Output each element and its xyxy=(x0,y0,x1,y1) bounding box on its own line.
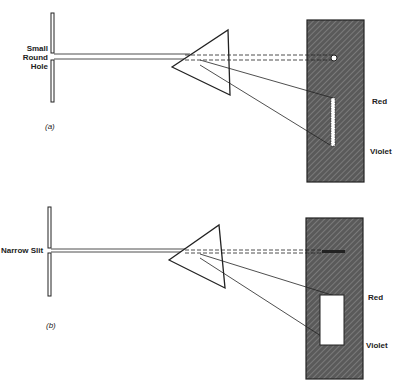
panel-b-caption: (b) xyxy=(46,321,56,330)
slit-label: Narrow Slit xyxy=(1,246,43,255)
panel-a xyxy=(51,13,364,182)
prism xyxy=(169,225,225,288)
diagram-canvas xyxy=(0,0,403,384)
aperture-label-line-1: Small xyxy=(20,44,48,53)
prism xyxy=(172,30,230,95)
panel-a-caption: (a) xyxy=(45,122,55,131)
spectrum-band xyxy=(320,295,344,345)
red-label-b: Red xyxy=(368,293,383,302)
aperture-plate-bottom xyxy=(51,60,54,102)
screen xyxy=(307,20,364,182)
hole-image xyxy=(331,55,337,61)
violet-label-a: Violet xyxy=(370,147,392,156)
slit-plate-bottom xyxy=(48,253,51,296)
spectrum-line xyxy=(331,98,335,146)
violet-label-b: Violet xyxy=(366,341,388,350)
aperture-label-line-3: Hole xyxy=(20,62,48,71)
slit-image xyxy=(322,250,345,253)
aperture-label-line-2: Round xyxy=(20,53,48,62)
aperture-plate-top xyxy=(51,13,54,53)
slit-plate-top xyxy=(48,207,51,248)
panel-b xyxy=(48,207,363,379)
aperture-label: Small Round Hole xyxy=(20,44,48,71)
red-label-a: Red xyxy=(372,97,387,106)
